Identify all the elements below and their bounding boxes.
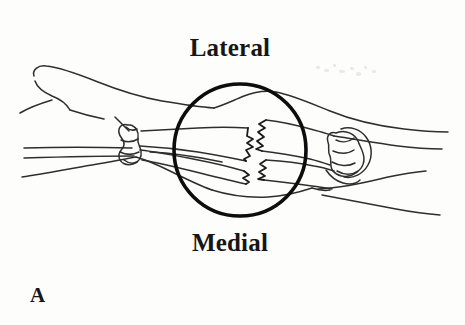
interosseous-line-lower [24,156,134,158]
wrist-bone-detail-4 [124,160,137,163]
ulna-fracture-zigzag-right [258,160,266,180]
forearm-lower-soft-tissue-left [22,157,136,177]
radius-upper-border [141,127,248,131]
upper-arm-lower-soft-tissue [318,171,426,189]
hand-outline-upper [34,66,214,108]
hand-lower-outline [70,110,104,119]
elbow-bone-detail-4 [337,171,358,174]
elbow-lower-soft-tissue [322,195,440,215]
wrist-bone-detail-3 [120,152,139,154]
wrist-bone-detail-2 [121,139,138,142]
panel-label: A [30,283,45,308]
ulna-fracture-zigzag-left [243,171,249,184]
ulna-upper-border-distal [266,160,334,171]
figure-panel-a: Lateral Medial A [0,0,465,325]
label-lateral: Lateral [0,34,465,62]
forearm-lower-soft-tissue-right [212,188,312,197]
thumb-crease [20,100,52,113]
interosseous-line-upper [24,147,132,148]
radius-fracture-zigzag-left [244,128,253,161]
elbow-bone-detail-2 [333,150,354,153]
ulna-upper-border [140,150,244,171]
label-medial: Medial [0,229,465,257]
thumb-web-outline [35,81,70,110]
ulna-lower-border [142,160,246,184]
upper-arm-upper-soft-tissue [334,136,442,149]
elbow-bone-detail-3 [332,162,355,166]
forearm-upper-soft-tissue [214,91,448,132]
radius-fracture-zigzag-right [256,120,266,151]
